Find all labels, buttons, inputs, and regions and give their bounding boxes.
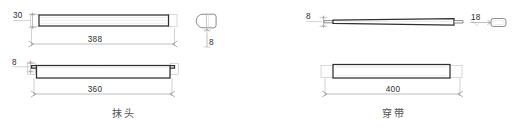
bar-inner-mark: ·	[100, 18, 101, 23]
right-top-thickness-dimension: 8	[306, 12, 328, 28]
right-width-dimension: 18	[470, 13, 491, 27]
right-top-view	[324, 19, 463, 26]
dim-label-8-right: 8	[306, 12, 311, 21]
dim-label-400: 400	[386, 85, 401, 94]
left-assembly-caption: 抹头	[112, 107, 136, 119]
dim-label-360: 360	[88, 85, 103, 94]
right-bottom-view	[321, 65, 462, 79]
dim-label-388: 388	[88, 35, 103, 44]
left-bottom-length-dimension: 360	[31, 78, 175, 97]
left-top-length-dimension: 388	[29, 28, 178, 47]
right-bottom-length-dimension: 400	[322, 78, 463, 97]
right-assembly-caption: 穿带	[382, 107, 406, 119]
left-section-dimension: 8	[204, 29, 215, 48]
left-section-profile	[196, 14, 216, 28]
left-bottom-view: ·	[28, 64, 179, 79]
dim-label-8-section: 8	[209, 38, 214, 47]
drawing-sheet: · 30 388 8	[0, 0, 513, 130]
right-section-profile	[491, 19, 506, 27]
left-top-view: ·	[31, 15, 178, 27]
dim-label-8-thickness: 8	[12, 58, 17, 67]
dim-label-18: 18	[471, 13, 481, 22]
dim-label-30: 30	[13, 11, 23, 20]
bar-inner-mark-2: ·	[100, 68, 101, 73]
